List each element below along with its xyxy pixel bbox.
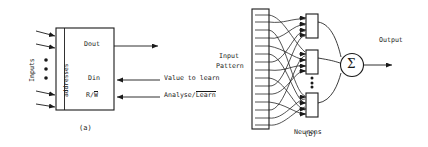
dot bbox=[311, 82, 314, 85]
panel-a-signal-lines bbox=[114, 46, 160, 97]
neuron-box-1 bbox=[306, 14, 318, 38]
neuron-box-3 bbox=[306, 93, 318, 117]
input-arrow-4 bbox=[36, 104, 55, 107]
dout-label: Dout bbox=[84, 40, 100, 48]
input-pattern-bar bbox=[252, 9, 269, 129]
inputs-label: Inputs bbox=[28, 58, 36, 82]
input-pattern-label-line1: Input bbox=[219, 52, 239, 60]
analyse-learn-label: Analyse/Learn bbox=[164, 91, 216, 99]
input-arrow-2 bbox=[36, 44, 55, 48]
din-label: Din bbox=[88, 74, 100, 82]
panel-a-ellipsis-dots bbox=[44, 58, 48, 80]
value-to-learn-label: Value to learn bbox=[164, 74, 220, 82]
input-arrow-1 bbox=[36, 31, 55, 36]
dot bbox=[311, 77, 314, 80]
rw-label-overline: W bbox=[94, 91, 98, 99]
rw-label-prefix: R/ bbox=[86, 91, 94, 99]
neuron-1-to-sum bbox=[318, 22, 341, 57]
neuron-3-to-sum bbox=[318, 73, 341, 103]
analyse-label-overline: Learn bbox=[196, 91, 216, 99]
input-arrow-3 bbox=[36, 91, 55, 95]
dot bbox=[44, 76, 48, 80]
analyse-label-prefix: Analyse/ bbox=[164, 91, 196, 99]
dot bbox=[44, 58, 48, 62]
panel-a-caption: (a) bbox=[79, 124, 92, 132]
summation-symbol: Σ bbox=[347, 57, 355, 71]
panel-b-caption: (b) bbox=[304, 130, 317, 138]
output-label: Output bbox=[379, 36, 403, 44]
input-pattern-label-line2: Pattern bbox=[216, 62, 244, 70]
panel-b-input-bar-ticks bbox=[255, 15, 269, 125]
dot bbox=[44, 67, 48, 71]
neuron-2-to-sum bbox=[318, 58, 340, 63]
panel-b-neuron-to-sum-wires bbox=[318, 22, 341, 103]
panel-b-ellipsis-dots bbox=[311, 77, 314, 89]
dot bbox=[311, 86, 314, 89]
rw-label: R/W bbox=[86, 91, 98, 99]
addresses-label: addresses bbox=[62, 63, 69, 97]
neuron-box-2 bbox=[306, 50, 318, 74]
